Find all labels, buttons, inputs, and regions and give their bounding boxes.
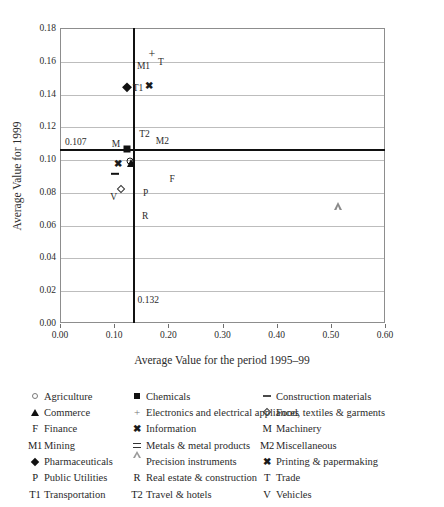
letter-glyph-icon: R: [128, 472, 146, 483]
data-point-label: M1: [137, 61, 150, 71]
x-axis-title: Average Value for the period 1995–99: [0, 354, 444, 366]
legend-item: MMachinery: [258, 421, 430, 437]
y-tick-label: 0.10: [28, 154, 56, 164]
gridline: [61, 291, 384, 292]
data-point-marker: [116, 185, 124, 193]
triangle-open-icon: [128, 458, 146, 465]
letter-glyph-icon: M: [258, 423, 276, 434]
legend-item: VVehicles: [258, 486, 430, 502]
letter-glyph-icon: M1: [26, 440, 44, 451]
data-point-label: M: [112, 139, 120, 149]
plot-area: 0.107 0.132 M1+TT1✖T2M2M✖VPFR: [60, 28, 385, 323]
equals-icon: [128, 443, 146, 448]
circle-open-icon: [26, 393, 44, 400]
data-point-marker: [334, 210, 342, 218]
data-point-marker: [111, 173, 119, 175]
y-tick-label: 0.14: [28, 89, 56, 99]
gridline: [61, 160, 384, 161]
x-tick-mark: [385, 324, 386, 328]
letter-glyph-icon: T: [258, 472, 276, 483]
legend-item-label: Vehicles: [276, 489, 430, 500]
y-tick-label: 0.12: [28, 121, 56, 131]
data-point-marker: [127, 159, 135, 167]
dash-icon: [258, 395, 276, 397]
data-point-marker: [124, 146, 131, 153]
y-tick-label: 0.00: [28, 318, 56, 328]
legend-item-label: Miscellaneous: [276, 440, 430, 451]
x-tick-label: 0.40: [259, 330, 295, 340]
x-tick-mark: [331, 324, 332, 328]
data-point-marker: ✖: [114, 159, 122, 169]
x-tick-mark: [223, 324, 224, 328]
plus-icon: +: [128, 406, 146, 418]
x-tick-mark: [277, 324, 278, 328]
legend-item-label: Trade: [276, 472, 430, 483]
y-tick-label: 0.06: [28, 220, 56, 230]
data-point-label: R: [142, 211, 148, 221]
letter-glyph-icon: P: [26, 472, 44, 483]
legend-item: Construction materials: [258, 388, 430, 404]
gridline: [61, 258, 384, 259]
data-point-marker: ✖: [145, 81, 153, 91]
horizontal-reference-line-label: 0.107: [65, 137, 86, 147]
data-point-label: T1: [133, 83, 144, 93]
letter-glyph-icon: T2: [128, 489, 146, 500]
legend-column-3: Construction materialsFood, textiles & g…: [258, 388, 430, 503]
y-tick-label: 0.04: [28, 252, 56, 262]
letter-glyph-icon: T1: [26, 489, 44, 500]
y-tick-label: 0.16: [28, 56, 56, 66]
scatter-chart-figure: Average Value for 1999 0.000.020.040.060…: [0, 0, 444, 380]
data-point-label: T2: [139, 129, 150, 139]
x-tick-label: 0.50: [313, 330, 349, 340]
legend-item: TTrade: [258, 470, 430, 486]
x-axis-tick-labels: 0.000.100.200.300.400.500.60: [60, 330, 385, 346]
square-filled-icon: [128, 393, 146, 400]
legend-item-label: Printing & papermaking: [276, 456, 430, 467]
data-points-layer: M1+TT1✖T2M2M✖VPFR: [61, 29, 384, 37]
data-point-label: M2: [156, 136, 169, 146]
x-tick-mark: [60, 324, 61, 328]
legend-item: M2Miscellaneous: [258, 437, 430, 453]
y-tick-label: 0.18: [28, 23, 56, 33]
letter-glyph-icon: F: [26, 423, 44, 434]
legend-item-label: Machinery: [276, 423, 430, 434]
vertical-reference-line: [133, 28, 135, 323]
diamond-open-icon: [258, 409, 276, 415]
legend-item-label: Construction materials: [276, 391, 430, 402]
y-tick-label: 0.08: [28, 187, 56, 197]
y-tick-label: 0.02: [28, 285, 56, 295]
data-point-label: F: [169, 174, 174, 184]
data-point-label: T: [158, 57, 164, 67]
chart-legend: AgricultureCommerceFFinanceM1MiningPharm…: [26, 388, 430, 500]
y-axis-tick-labels: 0.000.020.040.060.080.100.120.140.160.18: [26, 28, 56, 323]
x-tick-label: 0.20: [150, 330, 186, 340]
x-tick-mark: [168, 324, 169, 328]
data-point-marker: +: [149, 48, 156, 60]
gridline: [61, 95, 384, 96]
data-point-label: P: [143, 188, 148, 198]
x-tick-label: 0.00: [42, 330, 78, 340]
x-tick-mark: [114, 324, 115, 328]
x-tick-label: 0.60: [367, 330, 403, 340]
x-tick-label: 0.30: [205, 330, 241, 340]
x-tick-label: 0.10: [96, 330, 132, 340]
horizontal-reference-line: [60, 149, 385, 151]
triangle-filled-icon: [26, 409, 44, 416]
data-point-label: V: [110, 192, 117, 202]
diamond-filled-icon: [26, 459, 44, 465]
letter-glyph-icon: V: [258, 489, 276, 500]
gridline: [61, 226, 384, 227]
y-axis-title: Average Value for 1999: [6, 56, 28, 296]
y-axis-title-text: Average Value for 1999: [11, 121, 23, 230]
letter-glyph-icon: M2: [258, 440, 276, 451]
x-mark-icon: ✖: [258, 456, 276, 467]
legend-item: Food, textiles & garments: [258, 404, 430, 420]
legend-item: ✖Printing & papermaking: [258, 454, 430, 470]
vertical-reference-line-label: 0.132: [138, 295, 159, 305]
x-mark-icon: ✖: [128, 423, 146, 434]
gridline: [61, 127, 384, 128]
legend-item-label: Food, textiles & garments: [276, 407, 430, 418]
gridline: [61, 62, 384, 63]
data-point-marker: [122, 83, 131, 92]
